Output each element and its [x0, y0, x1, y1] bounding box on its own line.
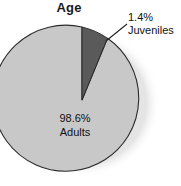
adults-percent: 98.6% [44, 112, 106, 124]
adults-inside-label: 98.6% Adults [44, 112, 106, 138]
adults-name: Adults [44, 126, 106, 138]
juveniles-name: Juveniles [128, 24, 174, 36]
pie-slice-adults[interactable] [0, 25, 139, 171]
pie-chart-figure: Age 1.4% Juveniles 98.6% Adults [0, 0, 181, 186]
juveniles-callout-label: 1.4% Juveniles [128, 11, 174, 36]
juveniles-percent: 1.4% [128, 11, 174, 23]
